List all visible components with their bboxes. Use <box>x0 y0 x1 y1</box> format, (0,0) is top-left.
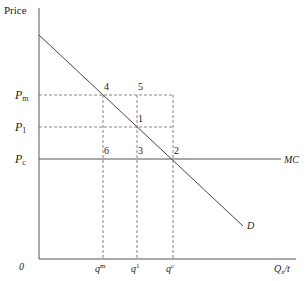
point-5: 5 <box>138 81 143 92</box>
price-label-pm: Pm <box>14 88 29 103</box>
quantity-label-q1: q1 <box>131 262 140 274</box>
point-4: 4 <box>104 81 109 92</box>
price-label-pc: Pc <box>14 152 26 167</box>
point-6: 6 <box>104 145 109 156</box>
quantity-label-qc: qc <box>166 262 174 274</box>
price-label-p1: P1 <box>14 120 26 135</box>
point-2: 2 <box>174 145 179 156</box>
demand-label: D <box>246 220 255 231</box>
point-3: 3 <box>138 145 143 156</box>
origin-label: 0 <box>19 261 24 272</box>
monopoly-diagram: Price Pm P1 Pc 4 5 1 6 3 2 MC D 0 qm q1 … <box>0 0 308 281</box>
mc-label: MC <box>283 154 299 165</box>
demand-curve <box>39 35 243 226</box>
point-1: 1 <box>138 113 143 124</box>
x-axis-label: Qx/t <box>274 263 290 276</box>
y-axis-label: Price <box>4 4 27 16</box>
quantity-label-qm: qm <box>95 262 106 274</box>
